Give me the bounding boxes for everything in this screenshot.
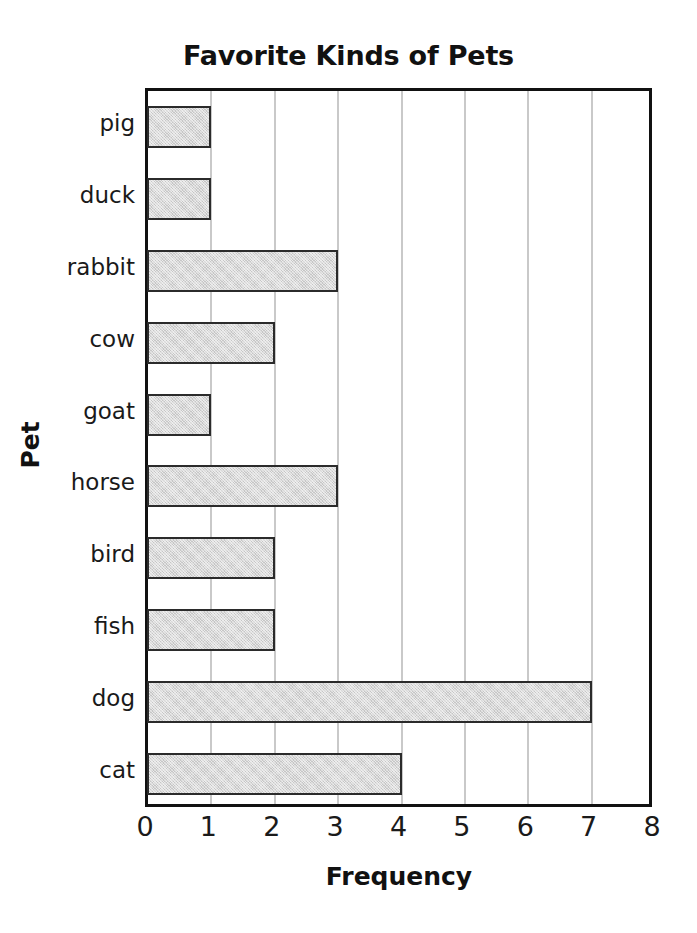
x-tick-label-0: 0 <box>115 812 175 842</box>
y-tick-label-cow: cow <box>0 328 135 351</box>
bars-layer <box>148 91 649 804</box>
bar-cow <box>147 322 275 364</box>
chart-title: Favorite Kinds of Pets <box>0 40 697 71</box>
bar-bird <box>147 537 275 579</box>
x-tick-label-7: 7 <box>559 812 619 842</box>
x-tick-label-3: 3 <box>305 812 365 842</box>
x-axis-tick-labels: 012345678 <box>0 812 697 852</box>
y-tick-label-cat: cat <box>0 759 135 782</box>
x-axis-title: Frequency <box>145 862 653 891</box>
bar-duck <box>147 178 211 220</box>
bar-fish <box>147 609 275 651</box>
bar-cat <box>147 753 402 795</box>
bar-goat <box>147 394 211 436</box>
bar-horse <box>147 465 338 507</box>
bar-dog <box>147 681 592 723</box>
y-tick-label-rabbit: rabbit <box>0 256 135 279</box>
y-tick-label-horse: horse <box>0 471 135 494</box>
bar-pig <box>147 106 211 148</box>
x-tick-label-2: 2 <box>242 812 302 842</box>
y-tick-label-duck: duck <box>0 184 135 207</box>
y-tick-label-fish: fish <box>0 615 135 638</box>
bar-chart-figure: Favorite Kinds of Pets Pet Frequency pig… <box>0 0 697 933</box>
x-tick-label-4: 4 <box>369 812 429 842</box>
y-tick-label-goat: goat <box>0 400 135 423</box>
y-tick-label-bird: bird <box>0 543 135 566</box>
y-tick-label-pig: pig <box>0 112 135 135</box>
x-tick-label-1: 1 <box>178 812 238 842</box>
x-tick-label-5: 5 <box>432 812 492 842</box>
x-tick-label-6: 6 <box>495 812 555 842</box>
x-tick-label-8: 8 <box>622 812 682 842</box>
y-tick-label-dog: dog <box>0 687 135 710</box>
plot-area <box>145 88 652 807</box>
y-axis-tick-labels: pigduckrabbitcowgoathorsebirdfishdogcat <box>0 88 135 807</box>
bar-rabbit <box>147 250 338 292</box>
